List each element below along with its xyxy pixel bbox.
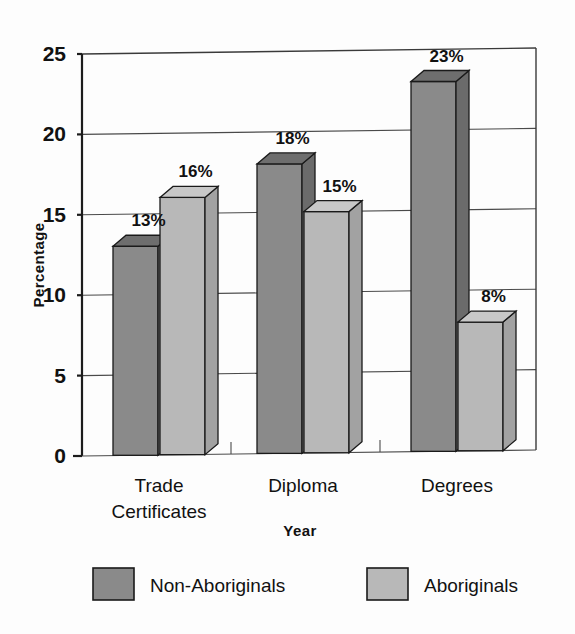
bar-aboriginals-2-value-label: 8% [481,287,506,306]
bar-aboriginals-1-side [349,201,362,453]
bar-non-aboriginals-0-front [113,246,158,455]
legend-label-0: Non-Aboriginals [150,575,285,596]
y-tick-label-5: 5 [54,364,66,387]
category-label-0-line-1: Certificates [111,501,206,522]
bar-aboriginals-2-front [458,322,503,451]
bar-aboriginals-1 [304,201,362,453]
y-tick-label-25: 25 [43,42,67,65]
bar-aboriginals-0-side [205,186,218,454]
chart-page: 0510152025 13%16%18%15%23%8% TradeCertif… [0,0,575,634]
bar-non-aboriginals-1-value-label: 18% [275,129,309,148]
category-label-1-line-0: Diploma [268,475,338,496]
x-axis-title: Year [283,522,316,539]
bar-aboriginals-1-front [304,212,349,453]
bar-non-aboriginals-0-value-label: 13% [131,211,165,230]
y-tick-label-20: 20 [43,122,66,145]
bar-non-aboriginals-2-front [411,82,456,452]
bar-chart: 0510152025 13%16%18%15%23%8% TradeCertif… [0,0,575,634]
category-label-2-line-0: Degrees [421,475,493,496]
bar-non-aboriginals-2-value-label: 23% [429,47,463,66]
bar-non-aboriginals-1-front [257,164,302,453]
y-tick-label-15: 15 [43,203,67,226]
bar-aboriginals-1-value-label: 15% [322,177,356,196]
legend-swatch-0 [93,568,134,600]
y-axis-title: Percentage [30,223,47,308]
bar-aboriginals-2 [458,311,516,451]
category-label-0-line-0: Trade [135,475,184,496]
y-tick-label-0: 0 [54,444,66,467]
bar-aboriginals-0 [160,186,218,454]
bar-aboriginals-0-value-label: 16% [178,162,212,181]
legend-label-1: Aboriginals [424,575,518,596]
bar-aboriginals-0-front [160,197,205,454]
bar-aboriginals-2-side [503,311,516,451]
legend-swatch-1 [367,568,408,600]
